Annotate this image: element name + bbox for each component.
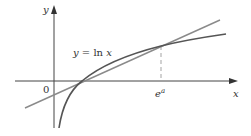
- curve-label-fn: ln: [93, 47, 106, 58]
- curve-label-lhs: y =: [72, 47, 93, 58]
- diagram-canvas: y x 0 y = ln x ea: [0, 0, 251, 136]
- y-axis-arrow-icon: [51, 5, 57, 14]
- curve-label: y = ln x: [72, 47, 112, 58]
- curve-label-var: x: [106, 47, 112, 58]
- origin-label: 0: [43, 84, 49, 95]
- x-axis-label: x: [233, 88, 239, 99]
- y-axis-label: y: [42, 4, 49, 15]
- tick-label-e-a: ea: [155, 87, 165, 99]
- y-axis: [51, 5, 57, 128]
- x-axis-arrow-icon: [229, 78, 238, 84]
- tick-exponent: a: [161, 87, 165, 95]
